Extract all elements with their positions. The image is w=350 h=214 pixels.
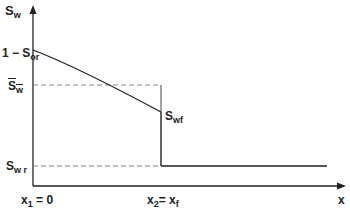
label-sw-bar: Sw — [8, 80, 23, 95]
y-axis-label: Sw — [5, 4, 21, 20]
x-axis-arrow-icon — [337, 183, 346, 190]
label-one-minus-sor: 1 − Sor — [2, 47, 39, 62]
y-axis-arrow-icon — [30, 5, 37, 14]
saturation-profile-diagram: Sw 1 − Sor Sw Swf Sw r x1 = 0 x2= xf x — [0, 0, 350, 214]
saturation-curve — [33, 50, 161, 112]
label-swf: Swf — [165, 110, 183, 125]
x-axis-label: x — [338, 194, 345, 206]
label-swr: Sw r — [6, 160, 27, 175]
label-x2-equals-xf: x2= xf — [147, 194, 179, 209]
diagram-canvas — [0, 0, 350, 214]
label-x1-equals-0: x1 = 0 — [21, 194, 53, 209]
